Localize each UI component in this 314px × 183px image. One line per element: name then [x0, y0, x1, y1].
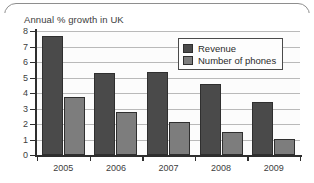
- y-axis-tick: [30, 140, 36, 141]
- y-axis-label: 7: [16, 43, 28, 52]
- legend-label-revenue: Revenue: [198, 43, 236, 54]
- x-axis-label-2009: 2009: [248, 164, 300, 173]
- chart-title: Annual % growth in UK: [24, 14, 124, 25]
- legend-swatch-icon-phones: [183, 56, 193, 65]
- x-axis-label-2006: 2006: [90, 164, 142, 173]
- y-axis-tick: [30, 62, 36, 63]
- x-axis-tick: [195, 156, 196, 161]
- x-axis-label-2005: 2005: [37, 164, 89, 173]
- y-axis-label: 4: [16, 89, 28, 98]
- y-axis-label: 6: [16, 58, 28, 67]
- bar-2009-revenue: [252, 102, 273, 155]
- x-axis-tick: [300, 156, 301, 161]
- bar-2008-phones: [222, 132, 243, 155]
- y-axis-label: 2: [16, 120, 28, 129]
- x-axis-tick: [37, 156, 38, 161]
- bar-2006-phones: [116, 112, 137, 155]
- y-axis-tick: [30, 47, 36, 48]
- y-axis-tick: [30, 155, 36, 156]
- y-axis-label: 1: [16, 136, 28, 145]
- gridline: [37, 31, 300, 32]
- y-axis-label: 0: [16, 151, 28, 160]
- legend-item-revenue: Revenue: [183, 42, 276, 54]
- bar-2005-phones: [64, 97, 85, 155]
- x-axis-tick: [90, 156, 91, 161]
- gridline: [37, 93, 300, 94]
- x-axis-label-2007: 2007: [143, 164, 195, 173]
- bar-2005-revenue: [42, 36, 63, 155]
- legend-label-phones: Number of phones: [198, 55, 276, 66]
- bar-2008-revenue: [200, 84, 221, 155]
- y-axis-tick: [30, 78, 36, 79]
- chart-legend: Revenue Number of phones: [178, 38, 283, 70]
- x-axis-line: [35, 155, 302, 157]
- bar-chart: Annual % growth in UK Revenue Number of …: [0, 0, 314, 183]
- y-axis-label: 5: [16, 74, 28, 83]
- gridline: [37, 78, 300, 79]
- x-axis-tick: [142, 156, 143, 161]
- legend-swatch-icon-revenue: [183, 44, 193, 53]
- bar-2009-phones: [274, 139, 295, 155]
- x-axis-label-2008: 2008: [195, 164, 247, 173]
- y-axis-label: 3: [16, 105, 28, 114]
- bar-2007-revenue: [147, 72, 168, 155]
- y-axis-tick: [30, 124, 36, 125]
- y-axis-tick: [30, 109, 36, 110]
- bar-2006-revenue: [94, 73, 115, 155]
- y-axis-label: 8: [16, 27, 28, 36]
- legend-item-phones: Number of phones: [183, 54, 276, 66]
- bar-2007-phones: [169, 122, 190, 155]
- x-axis-tick: [247, 156, 248, 161]
- y-axis-tick: [30, 31, 36, 32]
- y-axis-tick: [30, 93, 36, 94]
